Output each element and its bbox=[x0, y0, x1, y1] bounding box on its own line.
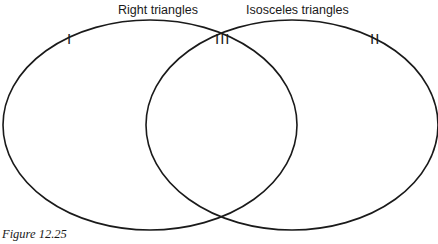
region-label-II: II bbox=[370, 30, 380, 47]
set-label-isosceles-triangles: Isosceles triangles bbox=[246, 3, 349, 17]
figure-caption: Figure 12.25 bbox=[2, 227, 67, 242]
set-label-right-triangles: Right triangles bbox=[118, 3, 198, 17]
set-right-triangles-ellipse bbox=[3, 20, 297, 230]
region-label-I: I bbox=[67, 30, 72, 47]
region-label-III: III bbox=[215, 30, 231, 47]
set-isosceles-triangles-ellipse bbox=[146, 20, 438, 230]
